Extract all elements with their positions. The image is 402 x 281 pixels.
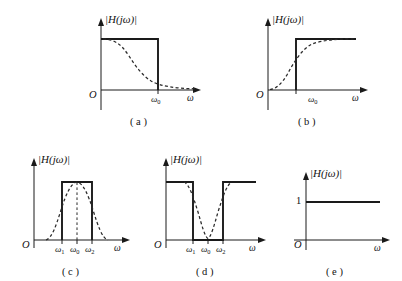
real-lowpass-curve [103,39,195,89]
y-axis-arrow-icon [163,158,169,166]
panel-allpass: |H(jω)| 1 O ω ( e ) [288,168,402,264]
y-axis-label: |H(jω)| [272,14,304,25]
panel-caption-b: ( b ) [298,117,316,128]
real-bandstop-curve [184,182,232,239]
panel-caption-e: ( e ) [326,267,343,278]
panel-bandstop: |H(jω)| O ω1 ω0 ω2 ω ( d ) [148,152,278,262]
tick-label-cutoff: ω0 [151,95,161,104]
tick-label-upper-cutoff: ω2 [216,245,226,254]
tick-label-upper-cutoff: ω2 [85,245,95,254]
tick-label-cutoff: ω0 [308,95,318,104]
panel-caption-a: ( a ) [130,117,147,128]
y-axis-label: |H(jω)| [105,14,137,25]
x-axis-arrow-icon [122,237,130,243]
ideal-bandstop-curve [166,182,256,240]
x-axis-label: ω [187,94,194,104]
x-axis-label: ω [352,94,359,104]
y-axis-arrow-icon [31,158,37,166]
x-axis-label: ω [249,244,256,254]
y-axis-arrow-icon [265,18,271,26]
origin-label: O [256,90,264,101]
origin-label: O [154,240,162,251]
panel-bandpass: |H(jω)| O ω1 ω0 ω2 ω ( c ) [16,152,142,262]
tick-label-center: ω0 [201,245,211,254]
x-axis-arrow-icon [360,87,368,93]
y-axis-label: |H(jω)| [38,154,70,165]
real-highpass-curve [270,39,356,90]
x-axis-arrow-icon [382,237,390,243]
tick-label-lower-cutoff: ω1 [55,245,65,254]
allpass-plot [288,168,400,264]
unity-level-label: 1 [296,196,301,207]
y-axis-label: |H(jω)| [310,168,342,179]
panel-highpass: |H(jω)| O ω0 ω ( b ) [252,14,378,114]
y-axis-arrow-icon [303,172,309,180]
bandstop-plot [148,152,278,262]
filter-response-figure: |H(jω)| O ω0 ω ( a ) |H(jω)| O ω0 ω ( b … [0,0,402,281]
tick-label-center: ω0 [70,245,80,254]
ideal-highpass-curve [296,39,356,90]
x-axis-label: ω [114,244,121,254]
ideal-bandpass-curve [62,182,92,240]
real-bandpass-curve [46,182,108,240]
panel-caption-d: ( d ) [196,267,214,278]
origin-label: O [22,240,30,251]
x-axis-label: ω [374,244,381,254]
x-axis-arrow-icon [258,237,266,243]
tick-label-lower-cutoff: ω1 [186,245,196,254]
x-axis-arrow-icon [193,87,201,93]
panel-caption-c: ( c ) [62,267,79,278]
origin-label: O [294,240,302,251]
origin-label: O [89,90,97,101]
panel-lowpass: |H(jω)| O ω0 ω ( a ) [85,14,205,114]
y-axis-label: |H(jω)| [170,154,202,165]
ideal-lowpass-curve [101,39,158,90]
y-axis-arrow-icon [98,18,104,26]
